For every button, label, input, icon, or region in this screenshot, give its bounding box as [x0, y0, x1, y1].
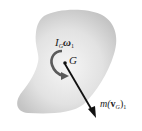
center-of-mass-label: G [69, 55, 77, 66]
diagram-canvas: IGω1 G m(vG)1 [0, 0, 142, 131]
center-of-mass-dot [63, 61, 67, 65]
linear-arrowhead-icon [88, 106, 96, 118]
linear-momentum-label: m(vG)1 [100, 99, 126, 110]
angular-momentum-label: IGω1 [55, 37, 74, 49]
